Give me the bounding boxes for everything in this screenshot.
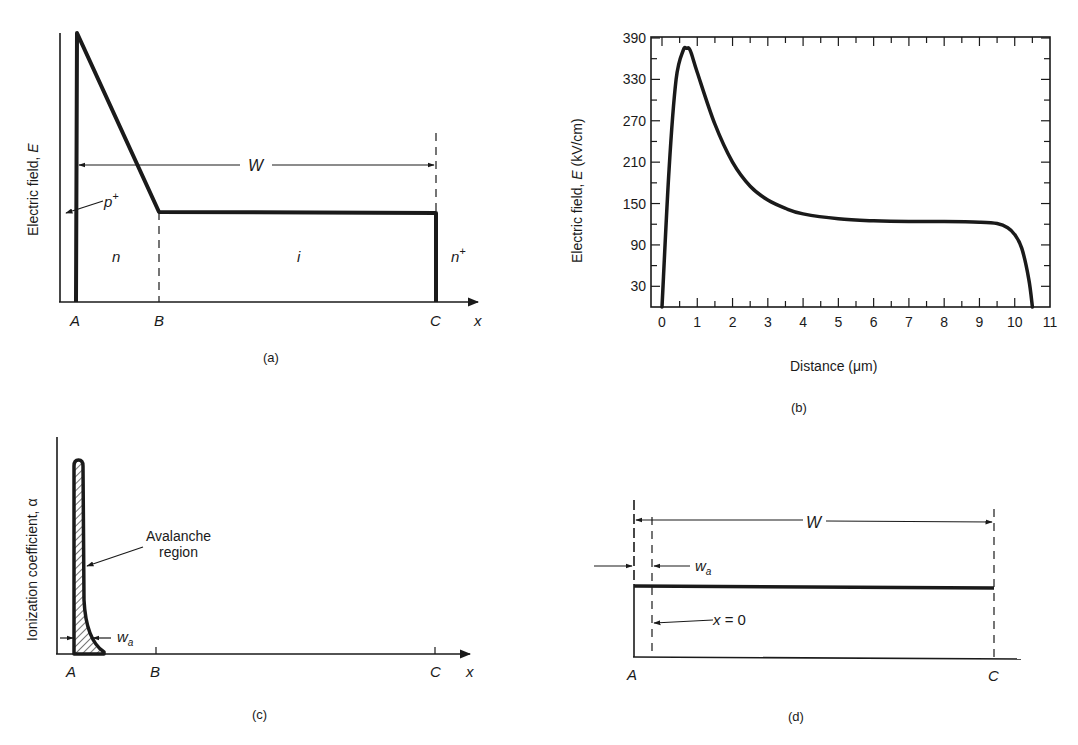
caption-a: (a) xyxy=(263,350,279,365)
y-axis-label: Electric field, E xyxy=(25,143,41,236)
x0-label: x = 0 xyxy=(712,611,746,628)
figure-canvas: W p+ n i n+ A B C x Electric field, E (a… xyxy=(0,0,1078,745)
p-plus-label: p+ xyxy=(103,190,119,210)
tick-label: 3 xyxy=(764,314,772,330)
tick-label: 150 xyxy=(623,196,647,212)
x-axis xyxy=(633,657,1021,659)
avalanche-pointer xyxy=(87,547,143,566)
tick-label: 6 xyxy=(870,314,878,330)
panel-d: W wa x = 0 A C (d) xyxy=(594,500,1021,724)
panel-b: 012345678910113090150210270330390 Distan… xyxy=(569,30,1057,415)
avalanche-label-line1: Avalanche xyxy=(146,528,211,544)
tick-label: 11 xyxy=(1043,314,1058,330)
axis-ticks xyxy=(651,37,1050,307)
plot-frame xyxy=(651,37,1050,307)
region-i: i xyxy=(297,248,301,265)
avalanche-label-line2: region xyxy=(159,544,198,560)
w-dimension-right xyxy=(826,521,992,522)
x0-pointer xyxy=(654,620,713,623)
tick-label: 0 xyxy=(658,314,666,330)
tick-label: 8 xyxy=(940,314,948,330)
tick-label: 210 xyxy=(623,154,647,170)
caption-d: (d) xyxy=(788,709,804,724)
x-axis-label: x xyxy=(473,312,482,329)
y-axis-label: Ionization coefficient, α xyxy=(24,499,40,641)
field-curve xyxy=(662,47,1032,307)
w-label: W xyxy=(248,157,265,174)
tick-label: 90 xyxy=(630,237,646,253)
wa-label: wa xyxy=(117,628,134,648)
x-axis-label: Distance (μm) xyxy=(790,358,877,374)
point-c: C xyxy=(988,667,999,684)
tick-label: 1 xyxy=(693,314,701,330)
tick-label: 9 xyxy=(976,314,984,330)
point-a: A xyxy=(626,666,637,683)
p-plus-pointer xyxy=(66,201,103,213)
y-axis-label: Electric field, E (kV/cm) xyxy=(569,118,585,263)
tick-label: 4 xyxy=(799,314,807,330)
x-axis-label: x xyxy=(465,663,474,680)
panel-c: Avalanche region wa A B C x Ionization c… xyxy=(24,437,474,722)
wa-label: wa xyxy=(695,557,712,577)
tick-label: 10 xyxy=(1007,314,1023,330)
region-n: n xyxy=(112,248,120,265)
caption-b: (b) xyxy=(791,400,807,415)
point-a: A xyxy=(69,312,80,329)
tick-labels: 012345678910113090150210270330390 xyxy=(623,30,1058,330)
point-a: A xyxy=(65,663,76,680)
region-n-plus: n+ xyxy=(451,245,466,265)
tick-label: 390 xyxy=(623,30,647,46)
point-b: B xyxy=(154,312,164,329)
point-c: C xyxy=(430,312,441,329)
tick-label: 330 xyxy=(623,71,647,87)
point-c: C xyxy=(430,663,441,680)
point-b: B xyxy=(150,663,160,680)
tick-label: 7 xyxy=(905,314,913,330)
uniform-field-line xyxy=(634,586,994,588)
tick-label: 2 xyxy=(729,314,737,330)
caption-c: (c) xyxy=(252,707,267,722)
avalanche-region xyxy=(74,460,104,654)
tick-label: 30 xyxy=(630,278,646,294)
w-label: W xyxy=(806,514,823,531)
tick-label: 5 xyxy=(834,314,842,330)
tick-label: 270 xyxy=(623,113,647,129)
panel-a: W p+ n i n+ A B C x Electric field, E (a… xyxy=(25,33,482,365)
